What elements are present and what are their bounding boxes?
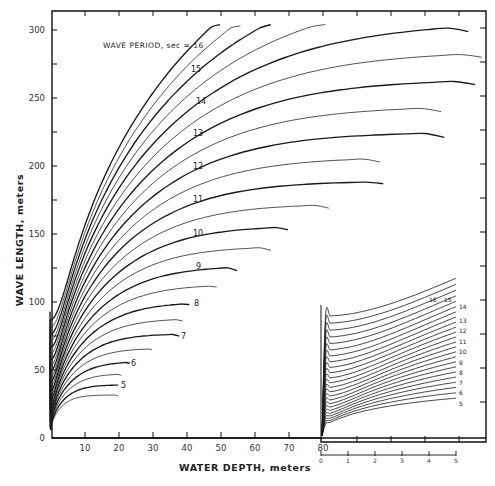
inset-scale-label: 4 — [427, 457, 431, 464]
curve-11-5-sec — [50, 159, 380, 430]
curve-12-5-sec — [50, 108, 441, 430]
curve-7-5-sec — [50, 320, 183, 430]
inset-curve-9 — [322, 352, 456, 436]
inset-scale-label: 5 — [454, 457, 458, 464]
inset-curve-label-16: 16 — [429, 296, 437, 303]
curve-7-sec — [50, 334, 179, 430]
wavelength-vs-depth-chart: 050100150200250300 1020304050607080 5678… — [0, 0, 495, 486]
curve-label-13: 13 — [193, 129, 203, 138]
x-tick-label: 20 — [114, 443, 125, 453]
curve-label-7: 7 — [181, 332, 186, 341]
inset-curve-7.5 — [322, 367, 456, 436]
inset-curve-label-8: 8 — [459, 369, 463, 376]
y-tick-label: 0 — [40, 433, 45, 443]
inset-curve-label-6: 6 — [459, 389, 463, 396]
y-axis-title: WAVE LENGTH, meters — [14, 174, 25, 306]
inset-scale-label: 3 — [400, 457, 404, 464]
inset-curve-10.5 — [322, 337, 456, 436]
x-tick-label: 10 — [80, 443, 91, 453]
curve-label-10: 10 — [193, 229, 203, 238]
curve-13-5-sec — [50, 55, 482, 430]
curve-16-sec — [50, 25, 220, 430]
inset-curve-label-15: 15 — [444, 296, 452, 303]
curve-label-8: 8 — [194, 299, 199, 308]
wave-period-annotation: WAVE PERIOD, sec = 16 — [103, 41, 204, 50]
curve-label-6: 6 — [131, 359, 136, 368]
inset-scale-label: 1 — [346, 457, 350, 464]
inset-scale-label: 0 — [319, 457, 323, 464]
right-axis-ticks — [480, 28, 486, 402]
curve-11-sec — [50, 182, 383, 430]
plot-frame — [52, 11, 486, 442]
y-tick-label: 100 — [29, 297, 45, 307]
curve-label-11: 11 — [193, 195, 203, 204]
inset-scale-label: 2 — [373, 457, 377, 464]
inset-curve-label-5: 5 — [459, 400, 463, 407]
inset-curve-8.5 — [322, 357, 456, 436]
curve-label-12: 12 — [193, 162, 203, 171]
inset-curve-4.5 — [322, 398, 456, 436]
shallow-water-inset: 1615141312111098765 — [321, 278, 467, 438]
curve-label-5: 5 — [121, 381, 126, 390]
x-tick-label: 30 — [148, 443, 159, 453]
curve-8-sec — [50, 304, 189, 430]
inset-curve-11 — [322, 332, 456, 436]
x-tick-label: 80 — [318, 443, 329, 453]
x-axis-ticks: 1020304050607080 — [80, 432, 329, 453]
y-tick-label: 200 — [29, 161, 45, 171]
curve-15-sec — [50, 25, 271, 430]
inset-curve-label-9: 9 — [459, 359, 463, 366]
wave-period-curves — [50, 25, 482, 430]
y-tick-label: 300 — [29, 25, 45, 35]
plot-border — [52, 11, 486, 442]
inset-curve-label-14: 14 — [459, 303, 467, 310]
x-tick-label: 70 — [284, 443, 295, 453]
inset-curve-label-7: 7 — [459, 379, 463, 386]
top-axis-ticks — [85, 11, 459, 16]
curve-label-14: 14 — [196, 97, 206, 106]
inset-curve-label-11: 11 — [459, 338, 467, 345]
inset-curve-label-12: 12 — [459, 327, 467, 334]
inset-depth-scale: 012345 — [319, 436, 459, 464]
inset-curve-label-10: 10 — [459, 348, 467, 355]
wave-period-curve-labels: 56789101112131415 — [121, 65, 206, 390]
x-tick-label: 40 — [182, 443, 193, 453]
curve-9-5-sec — [50, 248, 271, 430]
curve-label-9: 9 — [196, 262, 201, 271]
x-tick-label: 50 — [216, 443, 227, 453]
x-tick-label: 60 — [250, 443, 261, 453]
y-tick-label: 50 — [34, 365, 45, 375]
y-tick-label: 250 — [29, 93, 45, 103]
inset-curve-label-13: 13 — [459, 317, 467, 324]
y-tick-label: 150 — [29, 229, 45, 239]
curve-label-15: 15 — [191, 65, 201, 74]
x-axis-title: WATER DEPTH, meters — [179, 462, 311, 473]
curve-10-sec — [50, 228, 288, 430]
